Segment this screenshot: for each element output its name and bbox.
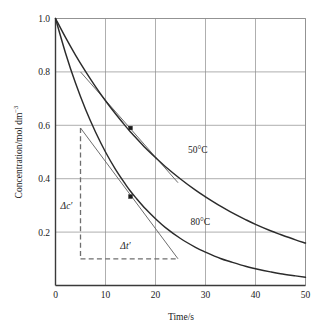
- series-label-80C: 80°C: [191, 217, 211, 227]
- plot-background: [0, 0, 329, 326]
- x-tick-label-30: 30: [201, 290, 211, 300]
- y-axis-title-group: Concentration/mol dm−3: [12, 105, 24, 198]
- x-tick-label-10: 10: [101, 290, 111, 300]
- chart-canvas: 01020304050 0.20.40.60.81.0 50°C80°C Δc′…: [0, 0, 329, 326]
- delta-t-label: Δt′: [119, 241, 131, 251]
- x-axis-title: Time/s: [168, 312, 194, 322]
- x-axis-title-group: Time/s: [168, 312, 194, 322]
- x-tick-label-20: 20: [151, 290, 161, 300]
- y-tick-label-0.2: 0.2: [38, 228, 50, 238]
- x-tick-label-0: 0: [53, 290, 58, 300]
- y-tick-label-0.8: 0.8: [38, 67, 50, 77]
- tangent-point-80C: [129, 195, 133, 199]
- concentration-vs-time-chart: 01020304050 0.20.40.60.81.0 50°C80°C Δc′…: [0, 0, 329, 326]
- y-tick-label-0.4: 0.4: [38, 174, 50, 184]
- series-label-50C: 50°C: [188, 145, 208, 155]
- tangent-point-50C: [129, 126, 133, 130]
- y-tick-label-0.6: 0.6: [38, 121, 50, 131]
- x-tick-label-40: 40: [251, 290, 261, 300]
- y-axis-title: Concentration/mol dm−3: [12, 105, 24, 198]
- delta-c-label: Δc′: [60, 201, 74, 211]
- y-tick-label-1.0: 1.0: [38, 14, 50, 24]
- x-tick-label-50: 50: [301, 290, 311, 300]
